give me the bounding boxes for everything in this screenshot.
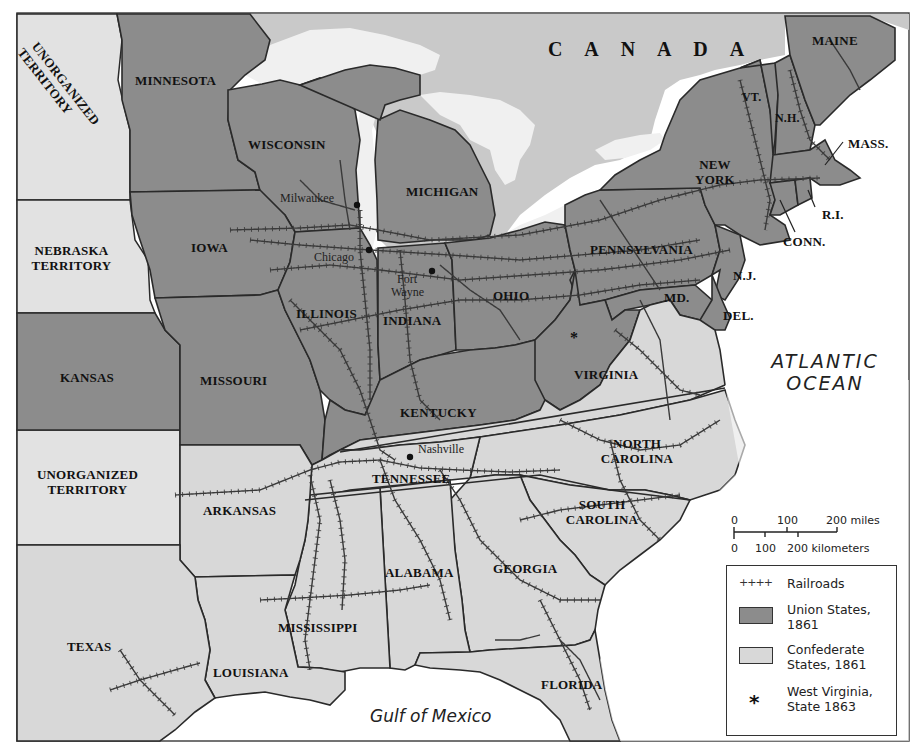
- label-line: CAROLINA: [562, 512, 642, 527]
- label-line: CAROLINA: [596, 451, 678, 466]
- north-carolina-label: NORTH CAROLINA: [596, 436, 678, 466]
- legend-label: Union States, 1861: [787, 602, 871, 632]
- georgia-label: GEORGIA: [493, 561, 557, 576]
- milwaukee-dot: [354, 202, 360, 208]
- scale-miles-0: 0: [731, 514, 738, 527]
- michigan-label: MICHIGAN: [406, 184, 478, 199]
- nebraska-territory-label: NEBRASKA TERRITORY: [24, 243, 119, 273]
- ri-label: R.I.: [822, 207, 844, 222]
- arkansas-label: ARKANSAS: [203, 503, 276, 518]
- del-label: DEL.: [723, 308, 754, 323]
- label-line: TERRITORY: [30, 482, 145, 497]
- confederate-swatch-icon: [739, 647, 773, 664]
- new-york-label: NEW YORK: [690, 157, 740, 187]
- nashville-dot: [407, 454, 413, 460]
- md-label: MD.: [664, 290, 690, 305]
- indiana-label: INDIANA: [383, 313, 441, 328]
- legend-label: West Virginia, State 1863: [787, 684, 873, 714]
- label-line: West Virginia,: [787, 684, 873, 699]
- virginia-label: VIRGINIA: [574, 367, 638, 382]
- ohio-label: OHIO: [493, 288, 529, 303]
- label-line: OCEAN: [750, 372, 900, 394]
- legend: ++++ Railroads Union States, 1861 Confed…: [726, 565, 897, 736]
- vt-label: VT.: [742, 90, 761, 105]
- label-line: Confederate: [787, 642, 866, 657]
- louisiana-label: LOUISIANA: [213, 665, 288, 680]
- tennessee-label: TENNESSEE: [372, 471, 450, 486]
- illinois-label: ILLINOIS: [296, 306, 357, 321]
- label-line: State 1863: [787, 699, 873, 714]
- pennsylvania-label: PENNSYLVANIA: [590, 242, 693, 257]
- label-line: SOUTH: [562, 497, 642, 512]
- texas-region: [17, 545, 215, 741]
- scale-miles-100: 100: [777, 514, 798, 527]
- label-line: UNORGANIZED: [30, 467, 145, 482]
- iowa-label: IOWA: [191, 240, 228, 255]
- milwaukee-label: Milwaukee: [280, 192, 334, 205]
- scale-km-200: 200 kilometers: [787, 542, 870, 555]
- star-icon: *: [749, 690, 759, 714]
- label-line: ATLANTIC: [750, 350, 900, 372]
- minnesota-label: MINNESOTA: [135, 73, 216, 88]
- kentucky-label: KENTUCKY: [400, 405, 477, 420]
- alabama-label: ALABAMA: [385, 565, 454, 580]
- fort-wayne-label: Fort Wayne: [391, 273, 424, 299]
- label-line: States, 1861: [787, 657, 866, 672]
- label-line: NEW: [690, 157, 740, 172]
- nashville-label: Nashville: [418, 443, 464, 456]
- chicago-label: Chicago: [314, 251, 354, 264]
- union-swatch-icon: [739, 607, 773, 624]
- nh-label: N.H.: [775, 111, 800, 126]
- scale-km-0: 0: [731, 542, 738, 555]
- mass-label: MASS.: [848, 136, 888, 151]
- wisconsin-label: WISCONSIN: [248, 137, 326, 152]
- gulf-of-mexico-label: Gulf of Mexico: [370, 705, 492, 727]
- chicago-dot: [366, 247, 372, 253]
- label-line: 1861: [787, 617, 871, 632]
- kansas-label: KANSAS: [60, 370, 114, 385]
- label-line: TERRITORY: [24, 258, 119, 273]
- label-line: NEBRASKA: [24, 243, 119, 258]
- south-carolina-label: SOUTH CAROLINA: [562, 497, 642, 527]
- fort-wayne-dot: [429, 268, 435, 274]
- sw-unorganized-territory-label: UNORGANIZED TERRITORY: [30, 467, 145, 497]
- label-line: Union States,: [787, 602, 871, 617]
- maine-label: MAINE: [812, 33, 858, 48]
- florida-label: FLORIDA: [541, 677, 602, 692]
- missouri-label: MISSOURI: [200, 373, 267, 388]
- scale-km-100: 100: [755, 542, 776, 555]
- label-line: Wayne: [391, 286, 424, 299]
- texas-label: TEXAS: [67, 639, 111, 654]
- mississippi-label: MISSISSIPPI: [278, 620, 358, 635]
- label-line: NORTH: [596, 436, 678, 451]
- west-virginia-star: *: [570, 330, 578, 345]
- atlantic-ocean-label: ATLANTIC OCEAN: [750, 350, 900, 394]
- conn-label: CONN.: [783, 234, 826, 249]
- nj-label: N.J.: [733, 268, 756, 283]
- label-line: YORK: [690, 172, 740, 187]
- legend-label: Confederate States, 1861: [787, 642, 866, 672]
- legend-label: Railroads: [787, 576, 845, 591]
- scale-miles-200: 200 miles: [826, 514, 880, 527]
- railroad-icon: ++++: [739, 576, 772, 589]
- canada-label: C A N A D A: [548, 38, 753, 61]
